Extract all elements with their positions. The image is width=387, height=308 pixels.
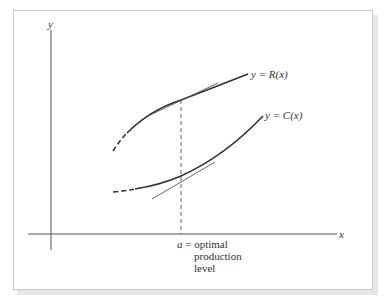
- revenue-curve-dashed: [113, 133, 127, 151]
- annotation-line-2: production: [194, 250, 242, 262]
- revenue-curve-label: y = R(x): [250, 68, 288, 81]
- cost-curve: [135, 116, 263, 189]
- cost-curve-label: y = C(x): [264, 109, 303, 122]
- annotation-line-1: a = optimal: [177, 238, 228, 250]
- cost-tangent-line: [152, 162, 215, 199]
- revenue-tangent-line: [148, 83, 218, 116]
- x-axis-label: x: [338, 228, 344, 240]
- revenue-curve: [127, 74, 248, 133]
- cost-curve-dashed: [113, 189, 135, 192]
- y-axis-label: y: [47, 18, 53, 30]
- diagram-canvas: y x y = R(x) y = C(x) a = optimal produc…: [0, 0, 387, 308]
- annotation-line-3: level: [194, 262, 215, 274]
